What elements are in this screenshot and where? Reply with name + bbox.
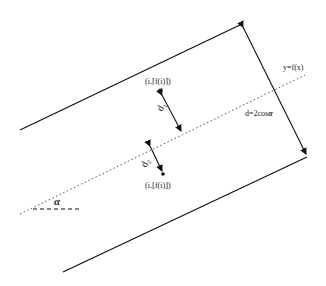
lower-boundary-line (63, 157, 307, 272)
lower-point-marker (161, 172, 165, 176)
distance-text: d=2cos (245, 109, 268, 118)
alpha-label: α (54, 195, 61, 207)
distance-alpha: α (268, 109, 273, 118)
distance-arrow (243, 27, 306, 154)
d2-label: d₂ (138, 156, 152, 169)
lower-point-label: (i,⌊f(i)⌋) (145, 181, 171, 190)
d2-arrow (150, 146, 162, 171)
curve-label: y=f(x) (283, 63, 304, 72)
upper-point-marker (158, 89, 162, 93)
distance-label: d=2cosα (245, 109, 273, 118)
d1-arrow (162, 95, 181, 131)
diagram-canvas: (i,⌈f(i)⌉) (i,⌊f(i)⌋) d₁ d₂ y=f(x) d=2co… (0, 0, 326, 286)
upper-boundary-line (20, 24, 242, 130)
upper-point-label: (i,⌈f(i)⌉) (145, 77, 171, 86)
